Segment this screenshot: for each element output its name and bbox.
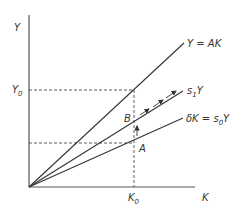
ak-model-diagram: Y K Y0 K0 Y = AK s1Y δK = s0Y B A [0, 0, 236, 214]
depreciation-label: δK = s0Y [186, 113, 230, 127]
savings-s1-label: s1Y [187, 85, 204, 99]
savings-s1-line [29, 91, 183, 187]
growth-arrow-3 [166, 91, 176, 98]
k0-label: K0 [128, 192, 140, 206]
growth-arrow-1 [140, 109, 149, 115]
production-line [29, 43, 184, 187]
k-axis-label: K [202, 192, 210, 203]
depreciation-line [29, 118, 183, 187]
y-axis-label: Y [14, 22, 21, 33]
point-b-label: B [124, 113, 131, 124]
production-line-label: Y = AK [187, 38, 223, 49]
point-a-label: A [138, 143, 146, 154]
y0-label: Y0 [12, 84, 23, 98]
